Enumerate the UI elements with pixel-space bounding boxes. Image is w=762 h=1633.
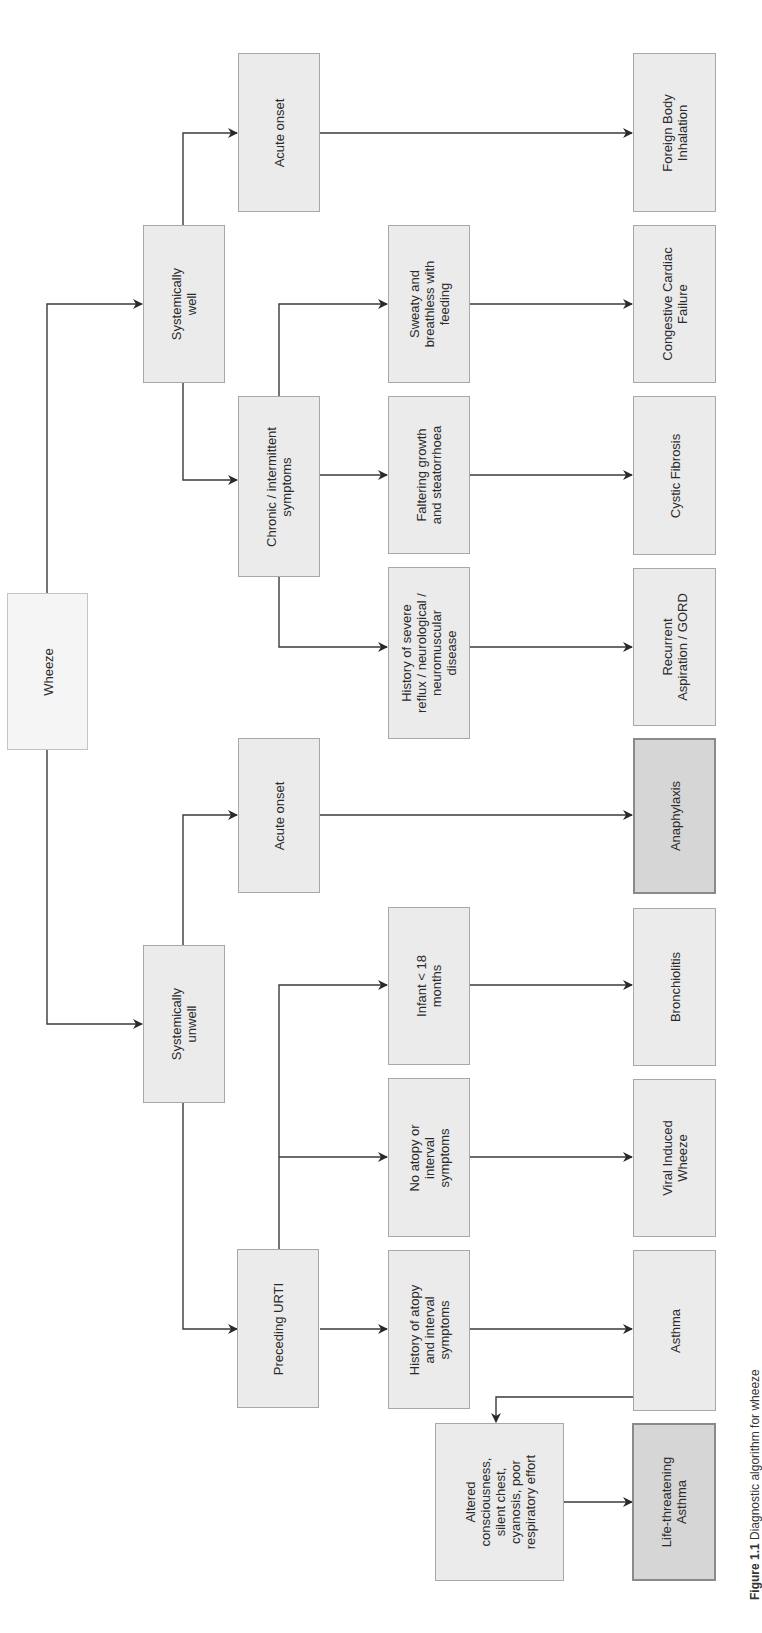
node-label: No atopy or interval symptoms xyxy=(407,1124,452,1191)
node-label: Recurrent Aspiration / GORD xyxy=(660,593,690,701)
node-label: Bronchiolitis xyxy=(667,952,682,1022)
node-label: Anaphylaxis xyxy=(667,781,682,851)
caption-text: Diagnostic algorithm for wheeze xyxy=(748,1369,762,1543)
outcome-bronchiolitis: Bronchiolitis xyxy=(633,908,716,1066)
outcome-recurrent-aspiration: Recurrent Aspiration / GORD xyxy=(633,568,716,726)
node-label: Asthma xyxy=(667,1308,682,1352)
node-label: Life-threatening Asthma xyxy=(659,1457,689,1547)
outcome-asthma: Asthma xyxy=(633,1250,716,1411)
node-altered-consciousness: Altered consciousness, silent chest, cya… xyxy=(435,1423,564,1581)
outcome-viral-induced-wheeze: Viral Induced Wheeze xyxy=(633,1079,716,1237)
node-label: Preceding URTI xyxy=(271,1282,286,1374)
node-label: Faltering growth and steatorrhoea xyxy=(414,426,444,524)
caption-prefix: Figure 1.1 xyxy=(748,1543,762,1600)
node-history-reflux: History of severe reflux / neurological … xyxy=(388,567,470,739)
outcome-foreign-body-inhalation: Foreign Body Inhalation xyxy=(633,53,716,212)
node-label: Altered consciousness, silent chest, cya… xyxy=(462,1455,537,1549)
node-chronic-intermittent: Chronic / intermittent symptoms xyxy=(238,396,320,577)
node-label: Systemically well xyxy=(169,268,199,340)
node-history-atopy: History of atopy and interval symptoms xyxy=(388,1250,470,1409)
node-label: Acute onset xyxy=(272,98,287,167)
node-acute-onset-unwell: Acute onset xyxy=(238,738,320,893)
node-label: Infant < 18 months xyxy=(414,955,444,1017)
outcome-life-threatening-asthma: Life-threatening Asthma xyxy=(632,1423,716,1581)
node-label: Sweaty and breathless with feeding xyxy=(407,261,452,348)
node-label: Foreign Body Inhalation xyxy=(660,94,690,171)
node-infant-under-18-months: Infant < 18 months xyxy=(388,907,470,1065)
outcome-congestive-cardiac-failure: Congestive Cardiac Failure xyxy=(633,225,716,383)
node-faltering-growth: Faltering growth and steatorrhoea xyxy=(388,396,470,554)
outcome-anaphylaxis: Anaphylaxis xyxy=(633,738,716,894)
node-label: Wheeze xyxy=(40,648,55,696)
node-systemically-unwell: Systemically unwell xyxy=(143,945,225,1103)
node-sweaty-breathless: Sweaty and breathless with feeding xyxy=(388,225,470,383)
node-systemically-well: Systemically well xyxy=(143,225,225,383)
node-label: Acute onset xyxy=(272,781,287,850)
figure-caption: Figure 1.1 Diagnostic algorithm for whee… xyxy=(748,1369,762,1600)
node-no-atopy: No atopy or interval symptoms xyxy=(388,1078,470,1237)
node-label: Systemically unwell xyxy=(169,988,199,1060)
node-label: Chronic / intermittent symptoms xyxy=(264,427,294,547)
node-label: Cystic Fibrosis xyxy=(667,433,682,518)
node-label: Congestive Cardiac Failure xyxy=(660,247,690,360)
node-label: History of atopy and interval symptoms xyxy=(407,1284,452,1374)
node-wheeze: Wheeze xyxy=(7,593,88,750)
node-label: History of severe reflux / neurological … xyxy=(399,593,459,713)
node-acute-onset-well: Acute onset xyxy=(238,53,320,212)
outcome-cystic-fibrosis: Cystic Fibrosis xyxy=(633,396,716,555)
node-preceding-urti: Preceding URTI xyxy=(237,1249,319,1408)
node-label: Viral Induced Wheeze xyxy=(660,1120,690,1196)
